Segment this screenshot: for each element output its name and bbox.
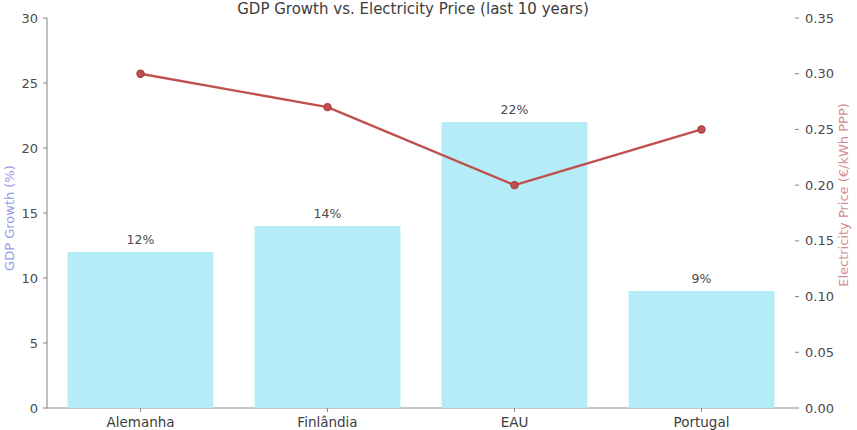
line-data-point xyxy=(511,182,518,189)
y-axis-tick-label-right: 0.30 xyxy=(805,66,834,81)
y-axis-tick-label-right: 0.05 xyxy=(805,345,834,360)
bar-value-label: 12% xyxy=(127,232,155,247)
y-axis-tick-label-right: 0.20 xyxy=(805,178,834,193)
y-axis-tick-label-right: 0.15 xyxy=(805,233,834,248)
electricity-price-line xyxy=(141,74,702,185)
y-axis-tick-label-left: 10 xyxy=(21,271,38,286)
y-axis-tick-label-right: 0.25 xyxy=(805,122,834,137)
y-axis-tick-label-left: 20 xyxy=(21,141,38,156)
y-axis-title-right: Electricity Price (€/kWh PPP) xyxy=(836,103,851,287)
line-data-point xyxy=(698,126,705,133)
bar-value-label: 9% xyxy=(692,271,712,286)
bar-value-label: 22% xyxy=(501,102,529,117)
chart-title: GDP Growth vs. Electricity Price (last 1… xyxy=(237,0,589,18)
bar-portugal xyxy=(629,291,775,408)
y-axis-tick-label-left: 25 xyxy=(21,76,38,91)
x-axis-category-label: EAU xyxy=(501,414,529,430)
y-axis-tick-label-right: 0.10 xyxy=(805,289,834,304)
chart-container: GDP Growth vs. Electricity Price (last 1… xyxy=(0,0,857,430)
y-axis-tick-label-left: 15 xyxy=(21,206,38,221)
gdp-electricity-chart: GDP Growth vs. Electricity Price (last 1… xyxy=(0,0,857,430)
x-axis-category-label: Finlândia xyxy=(297,414,357,430)
bar-alemanha xyxy=(68,252,214,408)
y-axis-tick-label-left: 0 xyxy=(30,401,38,416)
line-data-point xyxy=(324,104,331,111)
bar-finlandia xyxy=(255,226,401,408)
y-axis-tick-label-right: 0.00 xyxy=(805,401,834,416)
y-axis-title-left: GDP Growth (%) xyxy=(2,165,17,271)
x-axis-category-label: Alemanha xyxy=(106,414,174,430)
line-data-point xyxy=(137,70,144,77)
y-axis-tick-label-left: 30 xyxy=(21,11,38,26)
y-axis-tick-label-left: 5 xyxy=(30,336,38,351)
x-axis-category-label: Portugal xyxy=(674,414,730,430)
y-axis-tick-label-right: 0.35 xyxy=(805,11,834,26)
bar-value-label: 14% xyxy=(314,206,342,221)
